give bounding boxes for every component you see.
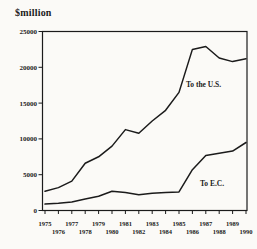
x-tick-label: 1985: [173, 220, 187, 227]
x-tick-label: 1984: [159, 228, 173, 235]
x-tick-label: 1977: [65, 220, 79, 227]
x-tick-label: 1989: [226, 220, 240, 227]
y-tick-label: 20000: [20, 64, 38, 72]
x-tick-label: 1987: [199, 220, 213, 227]
export-line-chart-figure: $million 0500010000150002000025000197519…: [0, 0, 257, 249]
x-tick-label: 1981: [119, 220, 132, 227]
x-tick-label: 1990: [240, 228, 253, 235]
x-tick-label: 1979: [92, 220, 106, 227]
x-tick-label: 1982: [132, 228, 145, 235]
y-tick-label: 5000: [23, 171, 38, 179]
series-line-to-the-us: [45, 47, 246, 192]
series-line-to-ec: [45, 143, 246, 205]
chart-svg: 0500010000150002000025000197519771979198…: [0, 0, 257, 249]
x-tick-label: 1976: [52, 228, 66, 235]
y-tick-label: 0: [34, 207, 38, 215]
x-tick-label: 1980: [106, 228, 119, 235]
series-label-to-the-us: To the U.S.: [186, 80, 221, 89]
y-tick-label: 15000: [20, 100, 38, 108]
y-tick-label: 25000: [20, 28, 38, 36]
x-tick-label: 1988: [213, 228, 227, 235]
y-tick-label: 10000: [20, 135, 38, 143]
series-label-to-ec: To E.C.: [200, 179, 224, 188]
x-tick-label: 1986: [186, 228, 200, 235]
x-tick-label: 1978: [79, 228, 93, 235]
x-tick-label: 1975: [39, 220, 53, 227]
x-tick-label: 1983: [146, 220, 160, 227]
